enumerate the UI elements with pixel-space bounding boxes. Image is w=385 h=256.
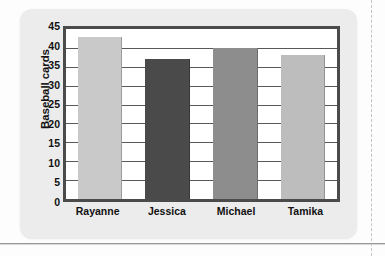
y-tick-label: 30 [48, 79, 60, 90]
bar-rayanne [78, 37, 122, 199]
plot-inner [66, 29, 337, 199]
y-tick-label: 35 [48, 60, 60, 71]
y-tick-label: 5 [54, 177, 60, 188]
bar-michael [213, 48, 257, 199]
bar-jessica [145, 59, 189, 199]
bar-slot [66, 29, 134, 199]
scanned-page: Baseball cards 454035302520151050 Rayann… [0, 0, 385, 256]
y-tick-label: 45 [48, 21, 60, 32]
x-tick-label: Tamika [271, 205, 340, 217]
plot-area [63, 26, 340, 202]
y-tick-label: 10 [48, 158, 60, 169]
x-tick-label: Jessica [132, 205, 201, 217]
bar-tamika [281, 55, 325, 199]
x-tick-label: Michael [202, 205, 271, 217]
y-tick-label: 25 [48, 99, 60, 110]
page-margin-dashed-rule [371, 0, 372, 256]
y-tick-label: 20 [48, 119, 60, 130]
x-axis-category-labels: RayanneJessicaMichaelTamika [63, 205, 340, 217]
y-axis-tick-labels: 454035302520151050 [34, 26, 60, 202]
x-tick-label: Rayanne [63, 205, 132, 217]
y-tick-label: 15 [48, 138, 60, 149]
page-bottom-rule [0, 243, 385, 245]
y-tick-label: 0 [54, 197, 60, 208]
bar-slot [269, 29, 337, 199]
bar-series [66, 29, 337, 199]
bar-slot [134, 29, 202, 199]
y-tick-label: 40 [48, 40, 60, 51]
bar-slot [202, 29, 270, 199]
bar-chart: Baseball cards 454035302520151050 Rayann… [20, 9, 357, 238]
